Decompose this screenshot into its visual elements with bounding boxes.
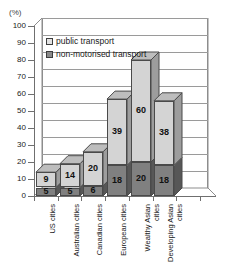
y-tick-label-60: 60 [2,90,26,98]
x-category-label-us-cities: US cities [49,204,58,268]
bar-value-label-non-motorised-transport: 18 [154,176,174,185]
x-category-label-developing-asian-cities: Developing Asiancities [167,204,184,268]
x-tick-7 [200,196,201,201]
x-category-label-australian-cities: Australian cities [73,204,82,268]
x-category-label-wealthy-asian-cities: Wealthy Asiancities [144,204,161,268]
bar-value-label-public-transport: 14 [60,171,80,180]
x-category-label-european-cities: European cities [120,204,129,268]
y-tick-100 [28,26,34,27]
y-tick-label-0: 0 [2,192,26,200]
y-tick-label-50: 50 [2,107,26,115]
legend-label-non-motorised-transport: non-motorised transport [56,50,146,59]
y-axis-line [34,26,35,196]
bar-value-label-non-motorised-transport: 18 [107,176,127,185]
bar-value-label-public-transport: 9 [36,175,56,184]
bar-value-label-public-transport: 20 [83,164,103,173]
bar-value-label-non-motorised-transport: 5 [36,187,56,196]
x-category-label-line: Australian cities [73,204,82,268]
y-tick-label-10: 10 [2,175,26,183]
y-tick-50 [28,111,34,112]
y-tick-60 [28,94,34,95]
y-tick-label-20: 20 [2,158,26,166]
y-tick-label-70: 70 [2,73,26,81]
y-tick-70 [28,77,34,78]
y-tick-label-100: 100 [2,22,26,30]
legend-label-public-transport: public transport [56,37,114,46]
y-tick-30 [28,145,34,146]
x-category-label-line: Canadian cities [96,204,105,268]
y-tick-40 [28,128,34,129]
x-tick-0 [34,196,35,201]
legend-item-public-transport: public transport [46,36,146,47]
x-category-label-line: European cities [120,204,129,268]
bar-value-label-non-motorised-transport: 5 [60,187,80,196]
x-category-label-line: US cities [49,204,58,268]
legend-swatch-non-motorised-transport [46,51,53,58]
y-tick-90 [28,43,34,44]
bar-value-label-public-transport: 60 [131,106,151,115]
plot-area: 0102030405060708090100 95145206391860203… [0,0,252,271]
bar-chart: (%) 0102030405060708090100 9514520639186… [0,0,252,271]
x-category-label-line: cities [176,204,185,268]
bar-value-label-non-motorised-transport: 6 [83,186,103,195]
y-tick-label-90: 90 [2,39,26,47]
bar-value-label-public-transport: 39 [107,127,127,136]
bar-value-label-public-transport: 38 [154,128,174,137]
y-tick-80 [28,60,34,61]
legend-item-non-motorised-transport: non-motorised transport [46,49,146,60]
bar-value-label-non-motorised-transport: 20 [131,174,151,183]
y-tick-10 [28,179,34,180]
y-tick-20 [28,162,34,163]
y-tick-label-30: 30 [2,141,26,149]
x-category-label-line: cities [153,204,162,268]
x-category-label-canadian-cities: Canadian cities [96,204,105,268]
y-tick-label-40: 40 [2,124,26,132]
legend: public transport non-motorised transport [46,36,146,62]
legend-swatch-public-transport [46,38,53,45]
y-tick-label-80: 80 [2,56,26,64]
